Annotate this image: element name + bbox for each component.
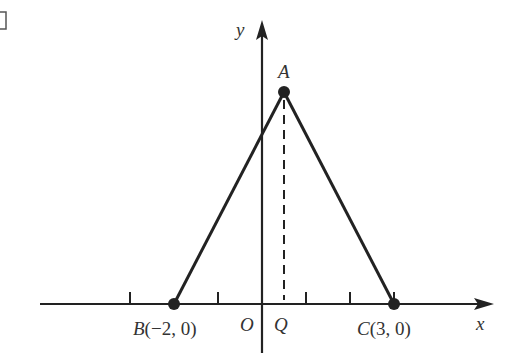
y-axis-label: y [234,19,245,40]
triangle-diagram: y x O A Q B(−2, 0) C(3, 0) [0,0,524,361]
point-c-label: C(3, 0) [357,318,411,340]
segment-ab [174,92,284,304]
point-q-label: Q [274,314,288,335]
point-b [168,298,180,310]
point-a-label: A [276,61,290,82]
corner-mark [0,12,6,29]
point-c [388,298,400,310]
segment-ac [284,92,394,304]
origin-label: O [240,314,254,335]
point-b-label: B(−2, 0) [133,318,196,340]
point-a [278,86,290,98]
x-axis-label: x [475,313,485,334]
